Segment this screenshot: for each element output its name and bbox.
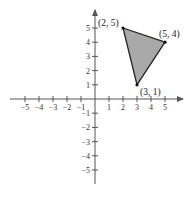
vertex-point (135, 83, 138, 86)
vertex-label: (3, 1) (140, 87, 161, 98)
x-tick-label: −4 (35, 103, 44, 112)
x-tick-label: 5 (163, 103, 167, 112)
vertex-label: (5, 4) (159, 29, 180, 40)
x-tick-label: −3 (49, 103, 58, 112)
vertex-point (121, 26, 124, 29)
x-tick-label: −2 (63, 103, 72, 112)
vertex-label: (2, 5) (98, 18, 119, 29)
y-tick-label: 4 (86, 38, 90, 47)
x-tick-label: 3 (135, 103, 139, 112)
y-tick-label: 1 (86, 81, 90, 90)
y-tick-label: −1 (81, 109, 90, 118)
x-axis-ticks: −5−4−3−2−112345 (21, 96, 167, 112)
y-tick-label: −3 (81, 138, 90, 147)
vertex-point (163, 41, 166, 44)
y-tick-label: 3 (86, 52, 90, 61)
y-tick-label: −4 (81, 152, 90, 161)
x-tick-label: −5 (21, 103, 30, 112)
x-tick-label: 1 (107, 103, 111, 112)
y-tick-label: 2 (86, 67, 90, 76)
y-tick-label: 5 (86, 24, 90, 33)
x-tick-label: 4 (149, 103, 153, 112)
y-tick-label: −5 (81, 166, 90, 175)
coordinate-plane: −5−4−3−2−112345 54321−1−2−3−4−5 (2, 5)(5… (0, 0, 191, 198)
x-tick-label: 2 (121, 103, 125, 112)
y-tick-label: −2 (81, 123, 90, 132)
